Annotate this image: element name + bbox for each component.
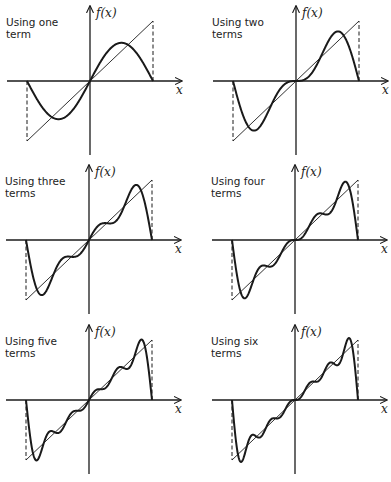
panel-title: Using sixterms [211,335,258,359]
panel-title: Using fourterms [211,175,266,199]
y-axis-label: f(x) [301,6,323,20]
panel-title: Using threeterms [5,175,66,199]
y-axis-label: f(x) [300,325,322,339]
y-axis-label: f(x) [94,325,116,339]
x-axis-label: x [175,402,182,416]
y-axis-label: f(x) [95,6,117,20]
y-axis-label: f(x) [94,165,116,179]
x-axis-label: x [381,242,388,256]
fourier-series-figure: Using onetermf(x)xUsing twotermsf(x)xUsi… [0,0,391,482]
x-axis-label: x [176,83,183,97]
x-axis-label: x [381,402,388,416]
panel-2: Using twotermsf(x)x [212,6,389,155]
x-axis-label: x [175,242,182,256]
panel-1: Using onetermf(x)x [6,6,183,155]
panel-6: Using sixtermsf(x)x [211,325,388,474]
panel-4: Using fourtermsf(x)x [211,165,388,314]
panel-title: Using fiveterms [5,335,57,359]
panel-title: Using twoterms [212,16,264,40]
y-axis-label: f(x) [300,165,322,179]
panel-title: Using oneterm [6,16,58,40]
x-axis-label: x [382,83,389,97]
panel-3: Using threetermsf(x)x [5,165,182,314]
panel-5: Using fivetermsf(x)x [5,325,182,474]
